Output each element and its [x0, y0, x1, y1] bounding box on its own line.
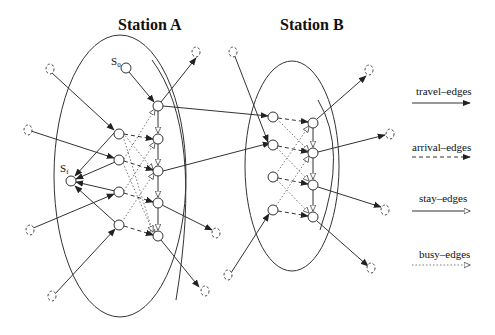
departure-node [153, 134, 163, 144]
time-expanded-graph-diagram: Station A Station B [0, 0, 495, 335]
legend: travel–edges arrival–edges stay–edges bu… [412, 85, 472, 265]
svg-text:arrival–edges: arrival–edges [412, 141, 471, 153]
departure-node [308, 180, 318, 190]
station-b-graph [229, 54, 385, 276]
start-node-label: S0 [111, 55, 121, 69]
departure-node [308, 118, 318, 128]
station-a-title: Station A [118, 16, 182, 33]
arrival-node [268, 205, 278, 215]
arrival-node [268, 172, 278, 182]
departure-node [153, 101, 163, 111]
svg-text:stay–edges: stay–edges [419, 192, 467, 204]
legend-item-arrival: arrival–edges [412, 141, 471, 157]
departure-node [153, 166, 163, 176]
svg-text:busy–edges: busy–edges [419, 248, 470, 260]
final-node [66, 176, 76, 186]
legend-item-travel: travel–edges [412, 85, 472, 103]
station-a-boundary [54, 35, 186, 317]
departure-node [308, 212, 318, 222]
arrival-node [114, 220, 124, 230]
legend-item-stay: stay–edges [412, 192, 470, 211]
station-b-boundary [245, 61, 339, 271]
arrival-node [268, 112, 278, 122]
departure-node [308, 148, 318, 158]
external-nodes-a [24, 47, 220, 301]
station-b-title: Station B [280, 16, 344, 33]
svg-text:travel–edges: travel–edges [416, 85, 472, 97]
final-node-label: Sf [60, 162, 69, 176]
travel-edges-b [229, 54, 385, 276]
busy-edges-a [122, 109, 155, 236]
arrival-node [114, 155, 124, 165]
start-node [121, 63, 131, 73]
departure-node [153, 231, 163, 241]
arrival-node [114, 129, 124, 139]
arrival-node [268, 140, 278, 150]
busy-edges-b [276, 119, 309, 213]
arrival-node [114, 187, 124, 197]
departure-node [153, 198, 163, 208]
legend-item-busy: busy–edges [412, 248, 470, 265]
arrival-edges-b [278, 118, 308, 216]
